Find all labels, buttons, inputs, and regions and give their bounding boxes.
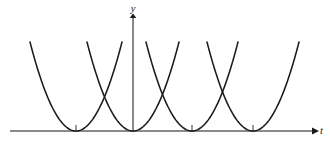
x-axis-tick-group [76,125,253,131]
x-axis-label: t [320,125,324,136]
parabola-curve-group [30,42,299,131]
figure-canvas: y t [0,0,330,156]
parabola-family-chart: y t [0,0,330,156]
right-arrow-icon [312,127,319,134]
y-axis-label: y [130,3,136,14]
axes-group [10,14,319,135]
parabola-curve [146,42,238,131]
parabola-curve [207,42,299,131]
parabola-curve [30,42,122,131]
up-arrow-icon [130,14,137,19]
